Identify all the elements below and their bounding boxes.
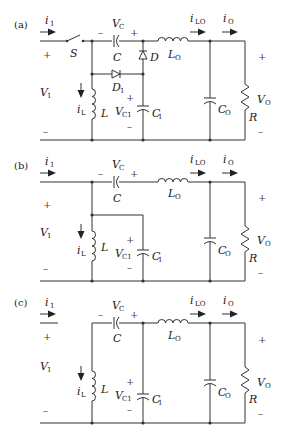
svg-text:O: O <box>225 250 231 258</box>
panel-a-label: (a) <box>14 19 28 30</box>
svg-text:O: O <box>225 109 231 117</box>
svg-text:O: O <box>265 382 271 390</box>
svg-text:LO: LO <box>195 300 206 308</box>
svg-text:1: 1 <box>50 302 54 310</box>
capacitor-C <box>114 176 119 188</box>
svg-text:O: O <box>225 392 231 400</box>
svg-text:(c): (c) <box>14 297 28 308</box>
panel-c: (c) i 1 – V C + C L O i LO i O i L L + V <box>14 294 271 425</box>
svg-text:i: i <box>77 385 81 398</box>
svg-text:D: D <box>149 51 159 64</box>
svg-text:(b): (b) <box>14 160 28 171</box>
svg-text:i: i <box>45 14 49 27</box>
svg-text:R: R <box>248 111 257 124</box>
inductor-L <box>92 231 96 261</box>
svg-text:–: – <box>43 126 48 137</box>
svg-text:+: + <box>43 331 51 342</box>
svg-text:i: i <box>45 155 49 168</box>
svg-text:O: O <box>265 240 271 248</box>
svg-text:C: C <box>119 164 124 172</box>
svg-text:LO: LO <box>195 159 206 167</box>
svg-text:L: L <box>100 383 108 396</box>
svg-text:1: 1 <box>50 161 54 169</box>
svg-text:L: L <box>100 107 108 120</box>
svg-text:i: i <box>190 12 194 25</box>
resistor-R <box>241 367 249 393</box>
svg-text:i: i <box>77 244 81 257</box>
svg-text:–: – <box>43 405 48 416</box>
svg-text:L: L <box>81 250 86 258</box>
svg-text:LO: LO <box>195 18 206 26</box>
svg-text:O: O <box>228 159 234 167</box>
svg-text:1: 1 <box>47 232 51 240</box>
svg-text:i: i <box>190 294 194 307</box>
svg-text:1: 1 <box>158 256 162 264</box>
inductor-LO <box>158 320 188 324</box>
svg-text:O: O <box>175 335 181 343</box>
svg-text:O: O <box>228 300 234 308</box>
svg-text:C: C <box>119 23 124 31</box>
svg-text:i: i <box>223 294 227 307</box>
svg-text:–: – <box>127 404 132 415</box>
svg-text:–: – <box>127 262 132 273</box>
svg-text:–: – <box>98 309 103 320</box>
svg-text:i: i <box>223 153 227 166</box>
svg-text:+: + <box>126 92 134 103</box>
svg-text:–: – <box>98 168 103 179</box>
resistor-R <box>241 226 249 252</box>
svg-text:C: C <box>113 51 122 64</box>
svg-text:+: + <box>130 309 138 320</box>
svg-text:O: O <box>175 54 181 62</box>
svg-text:–: – <box>258 126 263 137</box>
svg-text:L: L <box>100 241 108 254</box>
svg-text:1: 1 <box>47 366 51 374</box>
svg-text:1: 1 <box>50 20 54 28</box>
svg-text:–: – <box>258 408 263 419</box>
svg-text:+: + <box>130 168 138 179</box>
svg-text:C1: C1 <box>122 111 132 119</box>
svg-text:+: + <box>258 334 266 345</box>
svg-text:i: i <box>190 153 194 166</box>
svg-text:–: – <box>127 121 132 132</box>
svg-text:+: + <box>130 27 138 38</box>
svg-text:R: R <box>248 393 257 406</box>
inductor-LO <box>158 179 188 183</box>
capacitor-C <box>114 317 119 329</box>
resistor-R <box>241 84 249 110</box>
svg-text:–: – <box>98 27 103 38</box>
svg-text:1: 1 <box>158 399 162 407</box>
diode-D1 <box>112 70 120 78</box>
svg-text:C: C <box>113 192 122 205</box>
svg-text:C1: C1 <box>122 395 132 403</box>
svg-text:+: + <box>126 376 134 387</box>
svg-text:+: + <box>43 199 51 210</box>
svg-text:1: 1 <box>120 87 124 95</box>
capacitor-C <box>114 35 119 47</box>
svg-text:C: C <box>119 305 124 313</box>
svg-text:1: 1 <box>47 92 51 100</box>
diode-D <box>139 51 147 59</box>
circuit-diagram: (a) i 1 S – V C + C L O i LO i O <box>0 0 288 437</box>
inductor-L <box>92 371 96 401</box>
svg-text:–: – <box>258 267 263 278</box>
inductor-L <box>92 89 96 119</box>
svg-text:L: L <box>81 109 86 117</box>
svg-text:+: + <box>43 49 51 60</box>
svg-text:+: + <box>126 234 134 245</box>
svg-text:C1: C1 <box>122 253 132 261</box>
panel-a: (a) i 1 S – V C + C L O i LO i O <box>14 12 271 142</box>
svg-text:i: i <box>77 103 81 116</box>
inductor-LO <box>158 38 188 42</box>
svg-text:O: O <box>175 193 181 201</box>
svg-text:1: 1 <box>158 113 162 121</box>
switch-S <box>67 35 80 41</box>
svg-text:R: R <box>248 252 257 265</box>
svg-text:O: O <box>228 18 234 26</box>
svg-text:L: L <box>81 391 86 399</box>
svg-text:O: O <box>265 99 271 107</box>
svg-text:i: i <box>45 296 49 309</box>
svg-text:i: i <box>223 12 227 25</box>
svg-text:+: + <box>258 192 266 203</box>
svg-text:C: C <box>113 332 122 345</box>
svg-text:S: S <box>70 47 78 60</box>
